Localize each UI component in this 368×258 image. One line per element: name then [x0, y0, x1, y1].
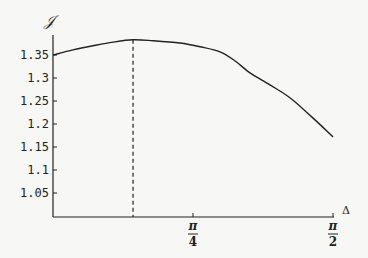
y-tick-label: 1.25 [20, 94, 49, 108]
y-axis-label: 𝒥 [43, 12, 60, 30]
plot-area: 1.051.11.151.21.251.31.35 π4π2 𝒥 Δ [20, 12, 350, 249]
y-ticks: 1.051.11.151.21.251.31.35 [20, 48, 57, 200]
y-tick-label: 1.15 [20, 140, 49, 154]
x-tick-denominator: 2 [329, 235, 337, 249]
y-tick-label: 1.3 [27, 71, 49, 85]
data-curve [53, 40, 333, 137]
y-tick-label: 1.2 [27, 117, 49, 131]
x-tick-denominator: 4 [189, 235, 197, 249]
y-tick-label: 1.05 [20, 186, 49, 200]
x-ticks: π4π2 [188, 213, 338, 249]
x-tick-numerator: π [328, 219, 338, 233]
x-tick-numerator: π [188, 219, 198, 233]
x-axis-label: Δ [342, 204, 350, 217]
line-chart: 1.051.11.151.21.251.31.35 π4π2 𝒥 Δ [0, 0, 368, 258]
y-tick-label: 1.1 [27, 163, 49, 177]
y-tick-label: 1.35 [20, 48, 49, 62]
